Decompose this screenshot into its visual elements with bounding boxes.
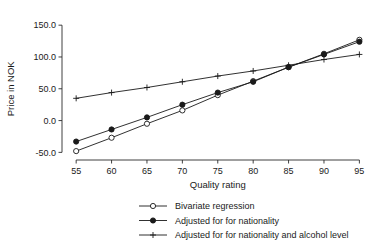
y-tick-label: 150.0: [33, 20, 56, 30]
x-tick-label: 75: [213, 166, 223, 176]
data-point: [180, 102, 185, 107]
data-point: [74, 139, 79, 144]
legend-item[interactable]: Adjusted for for nationality: [139, 216, 280, 226]
data-point: [109, 127, 114, 132]
x-tick-label: 95: [354, 166, 364, 176]
data-point: [321, 52, 326, 57]
legend-marker: [150, 218, 155, 223]
x-tick-label: 65: [142, 166, 152, 176]
chart-legend: Bivariate regressionAdjusted for for nat…: [139, 201, 349, 240]
data-point: [215, 90, 220, 95]
data-point: [74, 148, 79, 153]
data-point: [144, 121, 149, 126]
x-tick-label: 60: [107, 166, 117, 176]
y-axis-title: Price in NOK: [5, 61, 16, 117]
chart-figure: -50.00.050.0100.0150.0556065707580859095…: [0, 0, 389, 248]
legend-label: Bivariate regression: [175, 201, 255, 211]
y-tick-label: 50.0: [38, 84, 56, 94]
y-tick-label: 100.0: [33, 52, 56, 62]
data-point: [144, 115, 149, 120]
x-tick-label: 55: [71, 166, 81, 176]
legend-item[interactable]: Bivariate regression: [139, 201, 255, 211]
data-point: [251, 79, 256, 84]
legend-item[interactable]: Adjusted for for nationality and alcohol…: [139, 230, 349, 240]
legend-label: Adjusted for for nationality: [175, 216, 280, 226]
y-tick-label: -50.0: [35, 148, 56, 158]
data-point: [357, 39, 362, 44]
x-tick-label: 90: [319, 166, 329, 176]
legend-marker: [150, 203, 155, 208]
y-tick-label: 0.0: [43, 116, 56, 126]
data-point: [109, 135, 114, 140]
legend-label: Adjusted for for nationality and alcohol…: [175, 230, 349, 240]
x-tick-label: 85: [284, 166, 294, 176]
x-tick-label: 80: [248, 166, 258, 176]
x-axis-title: Quality rating: [190, 179, 246, 190]
x-tick-label: 70: [177, 166, 187, 176]
data-point: [180, 108, 185, 113]
line-chart: -50.00.050.0100.0150.0556065707580859095…: [0, 0, 389, 248]
